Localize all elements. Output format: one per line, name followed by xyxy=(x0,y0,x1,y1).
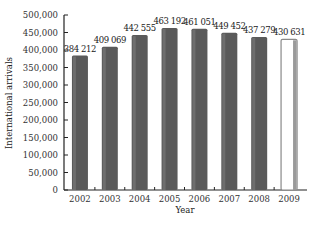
x-tick-label: 2008 xyxy=(248,194,270,204)
bar-2008 xyxy=(251,37,267,190)
bar-2003 xyxy=(102,47,118,190)
value-label: 449 452 xyxy=(213,21,245,31)
x-tick-label: 2003 xyxy=(99,194,121,204)
x-tick-label: 2002 xyxy=(69,194,91,204)
value-label: 384 212 xyxy=(64,44,96,54)
y-axis-title: International arrivals xyxy=(4,57,14,149)
y-tick-label: 0 xyxy=(53,185,58,195)
y-tick-label: 200,000 xyxy=(23,115,58,125)
bar-2002 xyxy=(72,56,88,190)
value-label: 442 555 xyxy=(124,23,156,33)
value-label: 463 192 xyxy=(153,16,185,26)
y-tick-label: 500,000 xyxy=(23,10,58,20)
y-tick-label: 350,000 xyxy=(23,63,58,73)
bar-2004 xyxy=(132,35,148,190)
y-tick-label: 250,000 xyxy=(23,98,58,108)
x-tick-label: 2006 xyxy=(189,194,211,204)
bar-chart: 050,000100,000150,000200,000250,000300,0… xyxy=(0,0,324,226)
bar-2007 xyxy=(221,33,237,190)
bars: 384 212409 069442 555463 192461 051449 4… xyxy=(64,16,305,190)
value-label: 430 631 xyxy=(273,27,305,37)
y-tick-label: 150,000 xyxy=(23,133,58,143)
y-axis: 050,000100,000150,000200,000250,000300,0… xyxy=(23,10,68,195)
x-axis: 20022003200420052006200720082009 xyxy=(64,187,307,204)
y-tick-label: 50,000 xyxy=(28,168,58,178)
x-axis-title: Year xyxy=(174,205,195,215)
x-tick-label: 2009 xyxy=(278,194,300,204)
value-label: 461 051 xyxy=(183,17,215,27)
x-tick-label: 2005 xyxy=(159,194,181,204)
value-label: 409 069 xyxy=(94,35,126,45)
y-tick-label: 450,000 xyxy=(23,28,58,38)
bar-2009 xyxy=(281,39,297,190)
y-tick-label: 100,000 xyxy=(23,150,58,160)
bar-2006 xyxy=(191,29,207,190)
bar-2005 xyxy=(162,28,178,190)
x-tick-label: 2004 xyxy=(129,194,151,204)
value-label: 437 279 xyxy=(243,25,275,35)
y-tick-label: 400,000 xyxy=(23,45,58,55)
y-tick-label: 300,000 xyxy=(23,80,58,90)
x-tick-label: 2007 xyxy=(218,194,240,204)
